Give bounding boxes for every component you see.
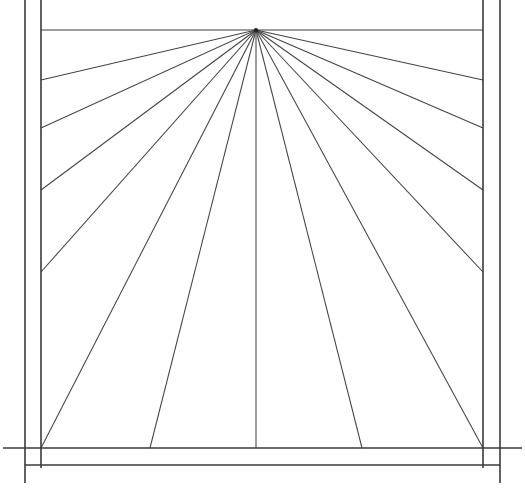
vanishing-point-marker <box>254 28 258 32</box>
ray-B1 <box>150 30 256 448</box>
ray-R2 <box>256 30 483 128</box>
ray-L5 <box>41 30 256 448</box>
ray-L2 <box>41 30 256 128</box>
drawing-canvas <box>0 0 525 501</box>
ray-L3 <box>41 30 256 190</box>
ray-L1 <box>41 30 256 80</box>
ray-R4 <box>256 30 483 272</box>
perspective-diagram <box>0 0 525 501</box>
ray-R5 <box>256 30 483 448</box>
ray-B3 <box>256 30 362 448</box>
ray-group <box>41 30 483 448</box>
ray-R1 <box>256 30 483 80</box>
ray-L4 <box>41 30 256 272</box>
frame-group <box>3 0 522 483</box>
